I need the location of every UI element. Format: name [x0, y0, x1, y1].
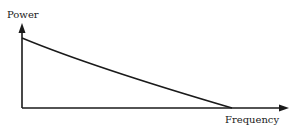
- power-curve: [22, 38, 232, 108]
- y-axis-label: Power: [7, 9, 39, 20]
- x-axis-label: Frequency: [225, 114, 279, 125]
- y-axis-arrow-icon: [19, 23, 26, 33]
- power-frequency-diagram: Power Frequency: [0, 0, 295, 133]
- x-axis-arrow-icon: [279, 105, 289, 112]
